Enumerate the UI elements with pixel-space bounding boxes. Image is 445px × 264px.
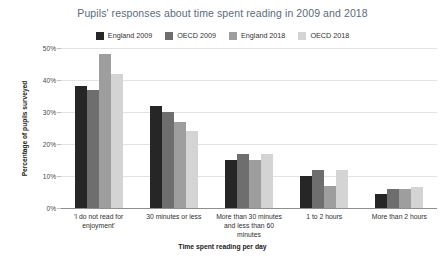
y-axis-tick-mark: [57, 208, 61, 209]
bar-group: [362, 48, 437, 208]
bar[interactable]: [237, 154, 249, 208]
bar[interactable]: [87, 90, 99, 208]
bar-chart: Pupils' responses about time spent readi…: [0, 0, 445, 264]
legend-swatch-icon: [229, 32, 237, 40]
bar[interactable]: [411, 187, 423, 208]
bar[interactable]: [111, 74, 123, 208]
bar-group: [61, 48, 136, 208]
bar[interactable]: [261, 154, 273, 208]
legend-swatch-icon: [298, 32, 306, 40]
legend-label: OECD 2009: [177, 31, 216, 40]
bar[interactable]: [336, 170, 348, 208]
plot-area: Percentage of pupils surveyed 0%10%20%30…: [0, 48, 445, 213]
x-axis-category-label: 30 minutes or less: [136, 212, 211, 221]
x-axis-title: Time spent reading per day: [0, 243, 445, 250]
y-axis-tick-label: 50%: [43, 45, 56, 52]
legend-swatch-icon: [96, 32, 104, 40]
bar[interactable]: [324, 186, 336, 208]
bar[interactable]: [375, 194, 387, 208]
legend-label: OECD 2018: [310, 31, 349, 40]
bar[interactable]: [387, 189, 399, 208]
legend-label: England 2018: [241, 31, 285, 40]
legend-item-2[interactable]: England 2018: [229, 31, 285, 40]
chart-legend: England 2009OECD 2009England 2018OECD 20…: [0, 31, 445, 40]
bar-groups: [61, 48, 437, 208]
bar[interactable]: [174, 122, 186, 208]
bar[interactable]: [399, 189, 411, 208]
legend-label: England 2009: [108, 31, 152, 40]
bar-group: [211, 48, 286, 208]
legend-item-1[interactable]: OECD 2009: [165, 31, 216, 40]
y-axis-tick-label: 20%: [43, 141, 56, 148]
x-axis-category-label: More than 30 minutes and less than 60 mi…: [211, 212, 286, 239]
bar-group: [136, 48, 211, 208]
y-axis-ticks: 0%10%20%30%40%50%: [33, 48, 59, 208]
bar[interactable]: [312, 170, 324, 208]
x-axis-category-label: 'I do not read for enjoyment': [61, 212, 136, 230]
bar[interactable]: [225, 160, 237, 208]
y-axis-tick-label: 40%: [43, 77, 56, 84]
bar-group: [287, 48, 362, 208]
x-axis-category-label: 1 to 2 hours: [287, 212, 362, 221]
x-axis-category-labels: 'I do not read for enjoyment'30 minutes …: [61, 212, 437, 239]
chart-title: Pupils' responses about time spent readi…: [0, 7, 445, 19]
y-axis-title: Percentage of pupils surveyed: [18, 48, 32, 208]
x-axis-category-label: More than 2 hours: [362, 212, 437, 221]
bar[interactable]: [300, 176, 312, 208]
legend-item-0[interactable]: England 2009: [96, 31, 152, 40]
y-axis-tick-label: 30%: [43, 109, 56, 116]
y-axis-tick-label: 0%: [46, 205, 56, 212]
legend-item-3[interactable]: OECD 2018: [298, 31, 349, 40]
bar[interactable]: [75, 86, 87, 208]
y-axis-title-label: Percentage of pupils surveyed: [22, 80, 29, 176]
bar[interactable]: [162, 112, 174, 208]
axis-baseline: [61, 208, 437, 209]
y-axis-tick-label: 10%: [43, 173, 56, 180]
bar[interactable]: [186, 131, 198, 208]
bar[interactable]: [150, 106, 162, 208]
legend-swatch-icon: [165, 32, 173, 40]
bar[interactable]: [249, 160, 261, 208]
bar[interactable]: [99, 54, 111, 208]
